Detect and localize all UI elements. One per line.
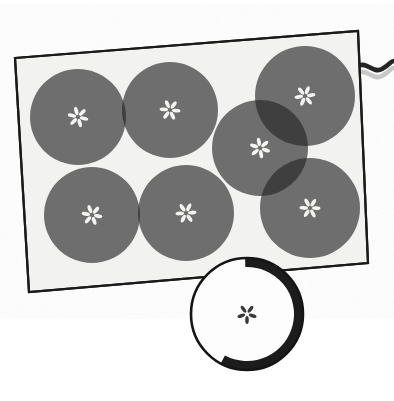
apple-slice-top-left xyxy=(30,69,126,165)
apple-slice-bottom-center xyxy=(138,165,234,261)
foreground-apple-slice xyxy=(191,258,303,370)
illustration-canvas xyxy=(0,0,394,401)
seed-petal xyxy=(245,316,249,324)
apple-slice-top-center xyxy=(122,62,218,158)
apple-slices-illustration xyxy=(0,0,394,401)
apple-slice-bottom-left xyxy=(44,167,140,263)
